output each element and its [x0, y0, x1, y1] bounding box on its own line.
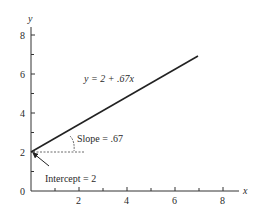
- y-tick-label-2: 2: [20, 147, 25, 158]
- y-tick-label-4: 4: [20, 108, 25, 119]
- x-tick-label-2: 2: [76, 195, 81, 206]
- x-tick-label-6: 6: [172, 195, 177, 206]
- equation-label: y = 2 + .67x: [83, 73, 134, 84]
- x-axis-label: x: [242, 185, 248, 196]
- chart: 0 2 4 6 8 2 4 6 8 y x y = 2 + .67x Slope…: [0, 0, 254, 217]
- intercept-arrow-icon: [33, 153, 49, 166]
- x-tick-label-4: 4: [124, 195, 129, 206]
- slope-label: Slope = .67: [77, 133, 123, 144]
- x-ticks: [55, 187, 223, 191]
- y-axis-label: y: [27, 13, 33, 24]
- x-tick-label-8: 8: [220, 195, 225, 206]
- intercept-label: Intercept = 2: [45, 173, 96, 184]
- y-tick-label-0: 0: [20, 186, 25, 197]
- y-tick-label-6: 6: [20, 69, 25, 80]
- slope-angle-arc: [70, 136, 74, 151]
- y-tick-label-8: 8: [20, 30, 25, 41]
